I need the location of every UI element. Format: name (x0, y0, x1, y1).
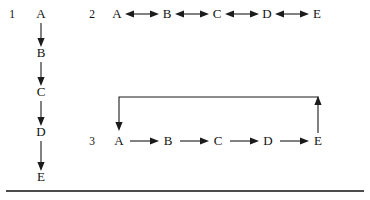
diagram-2-edge-de-arrowhead-right (300, 11, 309, 18)
diagram-2-node-c: C (213, 6, 222, 21)
diagram-3-node-a: A (114, 133, 124, 148)
diagram-3-node-b: B (164, 133, 173, 148)
diagram-1-node-a: A (36, 6, 46, 21)
diagram-2: 2 A B C D E (89, 6, 321, 21)
diagram-3-index: 3 (89, 135, 95, 147)
diagram-3-edge-de-arrowhead (300, 138, 309, 145)
diagram-3-edge-cd-arrowhead (250, 138, 259, 145)
diagram-2-edge-bc-arrowhead-right (200, 11, 209, 18)
diagram-2-edge-bc-arrowhead-left (175, 11, 184, 18)
diagram-3-node-c: C (214, 133, 223, 148)
diagram-3-edge-ab-arrowhead (150, 138, 159, 145)
diagram-2-edge-de-arrowhead-left (275, 11, 284, 18)
diagram-2-edge-ab-arrowhead-right (150, 11, 159, 18)
diagram-3-node-d: D (263, 133, 272, 148)
diagram-1-node-b: B (37, 45, 46, 60)
diagram-2-edge-ab-arrowhead-left (125, 11, 134, 18)
diagram-3-edge-bc-arrowhead (200, 138, 209, 145)
diagram-1-node-e: E (37, 169, 45, 184)
diagram-3-feedback-loop-arrowhead-into-a (115, 122, 122, 131)
diagram-1-index: 1 (9, 8, 15, 20)
diagram-2-node-b: B (163, 6, 172, 21)
diagram-1: 1 A B C D E (9, 6, 46, 184)
figure-root: 1 A B C D E 2 A B C D E (0, 0, 370, 200)
diagram-2-node-d: D (262, 6, 271, 21)
diagram-2-index: 2 (89, 8, 95, 20)
diagram-3-feedback-loop-line (119, 97, 318, 133)
diagram-2-node-e: E (313, 6, 321, 21)
diagram-1-node-c: C (37, 84, 46, 99)
diagram-2-edge-cd-arrowhead-left (225, 11, 234, 18)
diagram-canvas: 1 A B C D E 2 A B C D E (0, 0, 370, 200)
diagram-1-node-d: D (36, 124, 45, 139)
diagram-2-node-a: A (112, 6, 122, 21)
diagram-3: 3 A B C D E (89, 96, 322, 148)
diagram-3-node-e: E (314, 133, 322, 148)
diagram-2-edge-cd-arrowhead-right (250, 11, 259, 18)
